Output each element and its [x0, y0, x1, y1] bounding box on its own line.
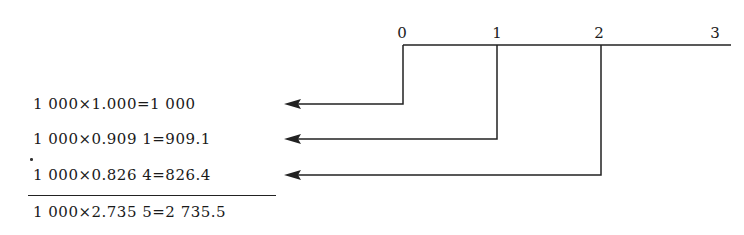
equation-period-2: 1 000×0.826 4=826.4: [33, 166, 211, 184]
connector-period-2: [292, 45, 601, 175]
period-label-2: 2: [594, 25, 604, 41]
equation-period-1: 1 000×0.909 1=909.1: [33, 130, 211, 148]
connector-period-1: [292, 45, 497, 139]
period-label-1: 1: [492, 25, 502, 41]
period-label-0: 0: [397, 25, 407, 41]
equation-total: 1 000×2.735 5=2 735.5: [33, 203, 226, 221]
equation-period-0: 1 000×1.000=1 000: [33, 95, 195, 113]
sum-divider-line: [28, 195, 276, 196]
connector-period-0: [292, 45, 403, 104]
stray-dot: [30, 158, 33, 161]
timeline-arrows: [0, 0, 744, 235]
annuity-present-value-diagram: 0 1 2 3 1 000×1.000=1 000 1 000×0.909 1=…: [0, 0, 744, 235]
period-label-3: 3: [710, 25, 720, 41]
